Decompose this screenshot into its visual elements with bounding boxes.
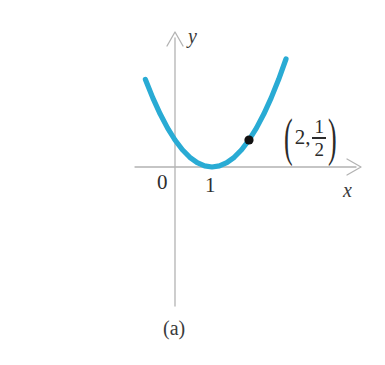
annotation-open-paren: ( [284,112,293,165]
annotation-comma: , [305,127,310,148]
x-axis-label: x [343,180,352,200]
fraction-numerator: 1 [312,117,326,137]
parabola-curve [145,59,286,167]
tick-label-one: 1 [205,175,216,196]
marked-point-dot [244,135,253,144]
annotation-x-value: 2 [295,127,306,148]
y-axis-label: y [188,26,197,46]
figure-caption: (a) [163,318,185,338]
figure-container: y x 0 1 ( 2 , 1 2 ) (a) [0,0,385,365]
point-coordinate-label: ( 2 , 1 2 ) [284,117,337,159]
annotation-close-paren: ) [328,112,337,165]
tick-label-origin: 0 [157,172,168,193]
plot-canvas [0,0,385,365]
fraction-denominator: 2 [312,139,326,159]
annotation-fraction: 1 2 [312,117,326,159]
